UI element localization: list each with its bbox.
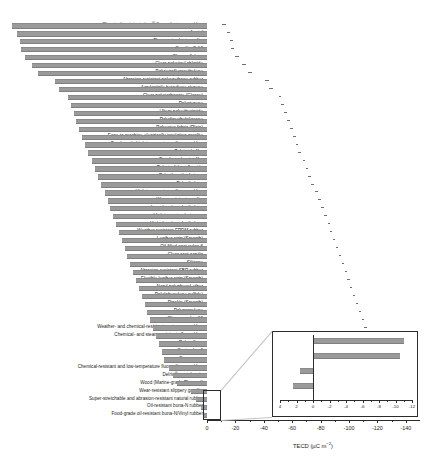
bar-row: Flame-retardant garolite [207, 38, 420, 46]
inset-x-axis-tick [346, 400, 347, 403]
error-bar [336, 247, 338, 248]
x-axis-tick-label: -20 [231, 425, 239, 431]
bar [12, 23, 207, 28]
bar-row: Noryl polyphenyl ether [207, 284, 420, 292]
bar-row: Leather strip (Smooth) [207, 237, 420, 245]
tecd-bar-chart: Chemical-resistant viton® fluoroelastome… [0, 0, 444, 464]
error-bar [235, 56, 239, 57]
x-axis-tick [264, 420, 265, 423]
inset-x-axis-minor-tick [338, 400, 339, 402]
bar-row: High impact polystyrene [207, 213, 420, 221]
bar-row: Poly(phenylene sulfide) [207, 292, 420, 300]
x-axis-tick-label: -140 [400, 425, 411, 431]
error-bar [342, 263, 344, 264]
bar-row: Pigskin (Smooth) [207, 300, 420, 308]
error-bar [353, 295, 355, 296]
inset-x-axis-tick [379, 400, 380, 403]
error-bar [308, 176, 311, 177]
inset-x-axis-tick [412, 400, 413, 403]
inset-x-axis-tick-label: -8 [377, 404, 381, 409]
error-bar [296, 144, 299, 145]
error-bar [242, 64, 246, 65]
error-bar [279, 96, 282, 97]
bar-row: Polyimide film [207, 149, 420, 157]
inset-zero-line [313, 335, 314, 400]
inset-x-axis-tick-label: 2 [295, 404, 297, 409]
inset-x-axis-minor-tick [354, 400, 355, 402]
error-bar [350, 287, 352, 288]
bar-row: Ultem polyetherimide [207, 109, 420, 117]
bar-row: Food-grade high-temperature silicone rub… [207, 141, 420, 149]
inset-x-axis-minor-tick [371, 400, 372, 402]
error-bar [227, 32, 231, 33]
bar-row: Clear polycarbonate (Glossy) [207, 94, 420, 102]
error-bar [284, 112, 287, 113]
x-axis-tick [321, 420, 322, 423]
bar-row: Silicone [207, 261, 420, 269]
inset-x-axis-tick [396, 400, 397, 403]
bar-row: Low-density polyethylene [207, 205, 420, 213]
error-bar [333, 239, 335, 240]
error-bar [269, 88, 273, 89]
error-bar [303, 160, 306, 161]
bar-row: Weather-resistant EPDM rubber [207, 229, 420, 237]
inset-source-region [203, 390, 221, 420]
inset-x-axis-tick [313, 400, 314, 403]
error-bar [298, 152, 301, 153]
inset-x-axis-tick-label: -6 [361, 404, 365, 409]
error-bar [345, 271, 347, 272]
error-bar [265, 80, 269, 81]
bar-row: Wear-resistant garolite [207, 197, 420, 205]
error-bar [293, 136, 296, 137]
bar-row: Easy-to-machine electrically insulating … [207, 133, 420, 141]
error-bar [281, 104, 284, 105]
error-bar [230, 40, 234, 41]
inset-x-axis-tick-label: 0 [312, 404, 314, 409]
x-axis-tick [235, 420, 236, 423]
x-axis-title: TECD (µC m−2) [293, 441, 333, 449]
error-bar [311, 184, 314, 185]
error-bar [306, 168, 309, 169]
error-bar [321, 207, 324, 208]
error-bar [315, 191, 318, 192]
inset-x-axis-tick [280, 400, 281, 403]
category-label: Super-stretchable and abrasion-resistant… [89, 395, 203, 403]
bar-row: Acetal [207, 30, 420, 38]
bar-row: Flexible leather strip (Smooth) [207, 277, 420, 285]
error-bar [356, 303, 358, 304]
bar-row: Polyetheretherketone [207, 173, 420, 181]
inset-x-axis-minor-tick [321, 400, 322, 402]
x-axis-tick [207, 420, 208, 423]
error-bar [339, 255, 341, 256]
error-bar [364, 327, 366, 328]
inset-bar-row [302, 366, 412, 381]
bar-row: Abrasion-resistant SBR rubber [207, 269, 420, 277]
error-bar [222, 24, 226, 25]
error-bar [328, 223, 330, 224]
inset-bar [313, 353, 400, 359]
bar-row: Abrasion-resistant polyurethane rubber [207, 78, 420, 86]
x-axis-minor-tick [250, 420, 251, 422]
inset-bar-row [302, 336, 412, 351]
x-axis-tick-label: -100 [344, 425, 355, 431]
x-axis-tick-label: -80 [317, 425, 325, 431]
inset-bar-row [302, 381, 412, 396]
inset-chart: 420-2-4-6-8-10-12 [272, 331, 418, 417]
error-bar [347, 279, 349, 280]
x-axis-tick-label: 0 [206, 425, 209, 431]
bar-row: Garolite G-10 [207, 46, 420, 54]
inset-bar-row [302, 351, 412, 366]
inset-x-axis-tick-label: -12 [409, 404, 415, 409]
inset-x-axis-tick-label: -4 [344, 404, 348, 409]
bar-row: Clear cast acrylic [207, 253, 420, 261]
x-axis-tick [406, 420, 407, 423]
inset-x-axis-minor-tick [288, 400, 289, 402]
x-axis-minor-tick [278, 420, 279, 422]
x-axis-minor-tick [392, 420, 393, 422]
x-axis-minor-tick [335, 420, 336, 422]
inset-x-axis-tick [330, 400, 331, 403]
inset-x-axis-tick-label: -2 [328, 404, 332, 409]
x-axis-tick-label: -40 [260, 425, 268, 431]
inset-x-axis-minor-tick [404, 400, 405, 402]
bar-row: Polyethylene [207, 181, 420, 189]
